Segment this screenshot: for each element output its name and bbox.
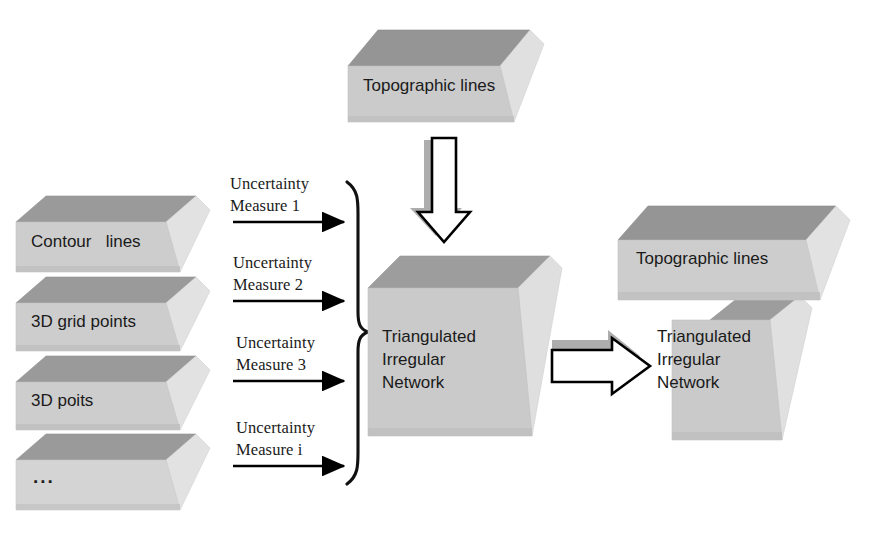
input-slab-2-label: 3D grid points xyxy=(31,312,136,332)
result-box-label-line1: Triangulated xyxy=(657,327,751,347)
top-source-label: Topographic lines xyxy=(363,76,495,96)
uncertainty-measure-1-line2: Measure 1 xyxy=(230,196,300,215)
right-curly-brace xyxy=(347,182,368,484)
result-cap-label: Topographic lines xyxy=(636,249,768,269)
input-slab-1-label: Contour lines xyxy=(31,232,141,252)
hollow-right-arrow xyxy=(552,330,650,394)
uncertainty-measure-1-line1: Uncertainty xyxy=(230,174,309,193)
uncertainty-measure-2-line2: Measure 2 xyxy=(233,275,303,294)
input-slab-4-label: ... xyxy=(33,466,55,488)
hollow-down-arrow xyxy=(410,138,470,242)
center-box-label-line1: Triangulated xyxy=(382,327,476,347)
uncertainty-measure-4-line1: Uncertainty xyxy=(236,418,315,437)
result-box-label-line2: Irregular xyxy=(657,350,720,370)
center-box-label-line3: Network xyxy=(382,373,444,393)
input-slab-3-label: 3D poits xyxy=(31,391,93,411)
uncertainty-measure-2-line1: Uncertainty xyxy=(233,253,312,272)
result-box-label-line3: Network xyxy=(657,373,719,393)
uncertainty-measure-3-line1: Uncertainty xyxy=(236,333,315,352)
diagram-canvas: Topographic lines Contour lines 3D grid … xyxy=(0,0,872,535)
result-stack xyxy=(618,206,850,440)
uncertainty-measure-3-line2: Measure 3 xyxy=(236,355,306,374)
uncertainty-measure-4-line2: Measure i xyxy=(236,440,302,459)
center-box-label-line2: Irregular xyxy=(382,350,445,370)
